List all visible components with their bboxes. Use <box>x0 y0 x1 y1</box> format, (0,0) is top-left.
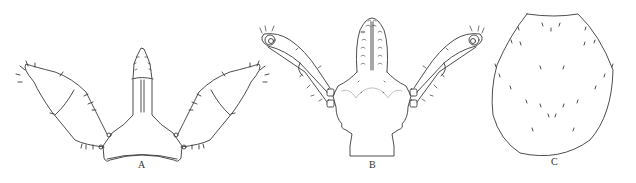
panel-label-a: A <box>138 159 145 170</box>
panel-a-drawing <box>16 48 269 161</box>
panel-label-c: C <box>551 156 558 167</box>
panel-label-b: B <box>369 159 376 170</box>
scientific-figure: A B C <box>0 0 636 183</box>
figure-drawing <box>0 0 636 183</box>
panel-c-drawing <box>492 14 613 156</box>
panel-b-drawing <box>260 18 484 156</box>
